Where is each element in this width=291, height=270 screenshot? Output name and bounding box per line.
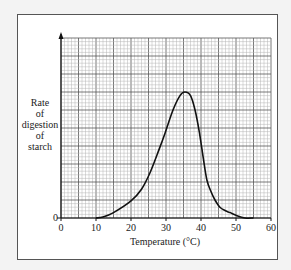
y-tick-label-zero: 0 <box>53 212 58 223</box>
data-curve <box>96 92 254 218</box>
x-tick-label: 60 <box>266 222 276 233</box>
y-axis-label: Rateofdigestionofstarch <box>22 97 59 152</box>
x-tick-labels: 0102030405060 <box>59 222 277 233</box>
x-tick-label: 30 <box>161 222 171 233</box>
x-tick-label: 40 <box>196 222 206 233</box>
x-tick-label: 0 <box>59 222 64 233</box>
y-axis-label-line: of <box>36 108 45 119</box>
line-chart: 0102030405060 0 Temperature (°C) Rateofd… <box>0 0 291 270</box>
x-tick-label: 20 <box>126 222 136 233</box>
y-axis-label-line: starch <box>28 141 52 152</box>
y-axis-label-line: of <box>36 130 45 141</box>
x-tick-label: 50 <box>231 222 241 233</box>
x-tick-label: 10 <box>91 222 101 233</box>
x-axis-label: Temperature (°C) <box>130 236 200 248</box>
y-axis-label-line: Rate <box>31 97 50 108</box>
y-axis-label-line: digestion <box>22 119 59 130</box>
